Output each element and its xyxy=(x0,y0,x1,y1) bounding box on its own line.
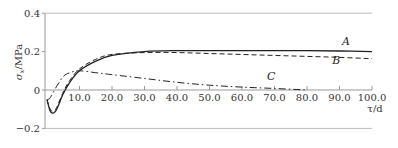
stress-time-chart: 0.40.20−0.2 10.020.030.040.050.060.070.0… xyxy=(0,0,398,148)
x-tick-label: 100.0 xyxy=(358,92,387,103)
curve-label-c: C xyxy=(267,70,276,83)
x-tick-label: 60.0 xyxy=(231,92,253,103)
y-tick-label: −0.2 xyxy=(16,123,40,134)
x-tick-label: 10.0 xyxy=(68,92,90,103)
curves xyxy=(47,51,372,114)
curve-labels: ABC xyxy=(267,35,350,84)
x-tick-label: 30.0 xyxy=(133,92,155,103)
x-axis-title: τ/d xyxy=(367,103,383,114)
x-tick-label: 90.0 xyxy=(328,92,350,103)
y-tick-label: 0.2 xyxy=(24,46,40,57)
y-tick-label: 0.4 xyxy=(24,8,40,19)
x-axis-ticks: 10.020.030.040.050.060.070.080.090.0100.… xyxy=(68,86,386,103)
x-tick-label: 40.0 xyxy=(166,92,188,103)
x-tick-label: 20.0 xyxy=(101,92,123,103)
x-tick-label: 70.0 xyxy=(263,92,285,103)
curve-a xyxy=(47,51,372,114)
curve-label-b: B xyxy=(331,54,340,67)
chart-frame xyxy=(45,13,372,128)
curve-label-a: A xyxy=(341,35,350,48)
x-tick-label: 50.0 xyxy=(198,92,220,103)
y-tick-label: 0 xyxy=(34,85,40,96)
x-tick-label: 80.0 xyxy=(296,92,318,103)
